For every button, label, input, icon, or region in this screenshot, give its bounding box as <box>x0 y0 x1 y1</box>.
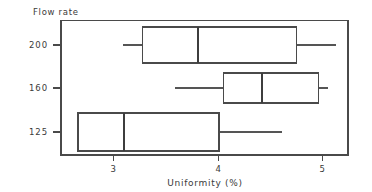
x-axis-ticks <box>114 155 323 161</box>
y-tick-label-160: 160 <box>29 83 48 93</box>
x-axis-title: Uniformity (%) <box>167 178 242 188</box>
box-series-layer <box>78 27 336 151</box>
box-group-200 <box>123 27 336 63</box>
plot-canvas: Flow rate 200 160 125 3 4 5 Uniformity (… <box>0 0 372 192</box>
boxplot-chart: Flow rate 200 160 125 3 4 5 Uniformity (… <box>0 0 372 192</box>
x-tick-label-3: 3 <box>111 164 117 174</box>
y-tick-label-125: 125 <box>29 127 48 137</box>
box-125 <box>78 113 219 151</box>
box-group-125 <box>78 113 282 151</box>
y-axis-title: Flow rate <box>33 7 79 17</box>
y-tick-label-200: 200 <box>29 40 48 50</box>
y-axis-ticks <box>53 45 61 132</box>
x-tick-label-4: 4 <box>216 164 222 174</box>
x-tick-label-5: 5 <box>320 164 326 174</box>
box-group-160 <box>175 73 328 103</box>
box-200 <box>143 27 297 63</box>
box-160 <box>223 73 318 103</box>
